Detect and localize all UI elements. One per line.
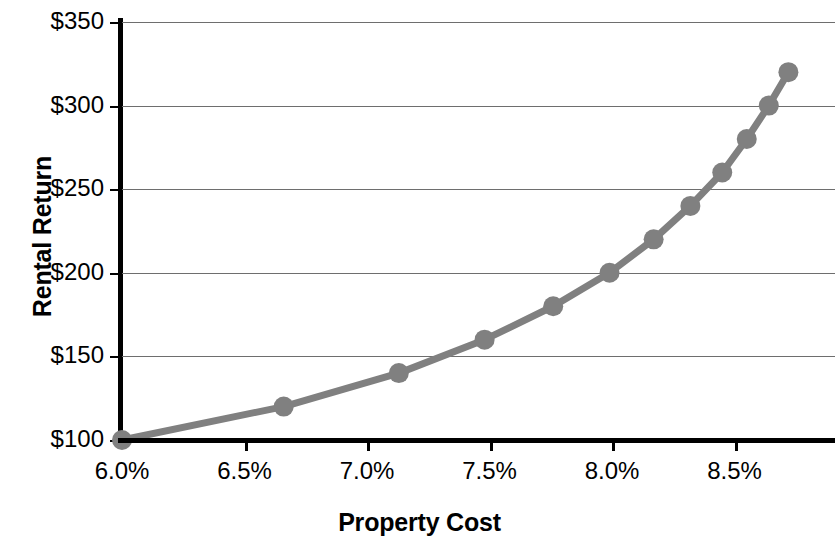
chart-container: Rental Return $100$150$200$250$300$350 6… <box>0 0 839 545</box>
x-axis-tick-label: 6.0% <box>62 457 182 485</box>
x-axis-tick-label: 8.5% <box>675 457 795 485</box>
y-axis-tick <box>110 273 120 275</box>
y-axis-tick <box>110 189 120 191</box>
x-axis-title: Property Cost <box>0 508 839 537</box>
y-axis-tick <box>110 22 120 24</box>
y-axis-tick-label: $250 <box>0 174 104 202</box>
y-axis-tick-label: $150 <box>0 341 104 369</box>
gridline <box>122 189 835 190</box>
plot-area <box>122 22 835 440</box>
y-axis-tick <box>110 356 120 358</box>
y-axis-tick-label: $350 <box>0 7 104 35</box>
x-axis-tick-label: 8.0% <box>552 457 672 485</box>
x-axis-tick-label: 7.5% <box>430 457 550 485</box>
gridline <box>122 356 835 357</box>
y-axis-tick <box>110 106 120 108</box>
y-axis-tick-label: $100 <box>0 425 104 453</box>
y-axis-tick-label: $200 <box>0 258 104 286</box>
y-axis-tick-label: $300 <box>0 91 104 119</box>
x-axis-tick <box>367 443 370 451</box>
x-axis-tick <box>490 443 493 451</box>
gridline <box>122 22 835 23</box>
gridline <box>122 273 835 274</box>
x-axis-tick <box>245 443 248 451</box>
y-axis-title: Rental Return <box>28 107 57 367</box>
x-axis-tick-label: 7.0% <box>307 457 427 485</box>
x-axis-tick-label: 6.5% <box>185 457 305 485</box>
x-axis-tick <box>612 443 615 451</box>
x-axis-line <box>118 438 835 443</box>
gridline <box>122 106 835 107</box>
x-axis-tick <box>735 443 738 451</box>
